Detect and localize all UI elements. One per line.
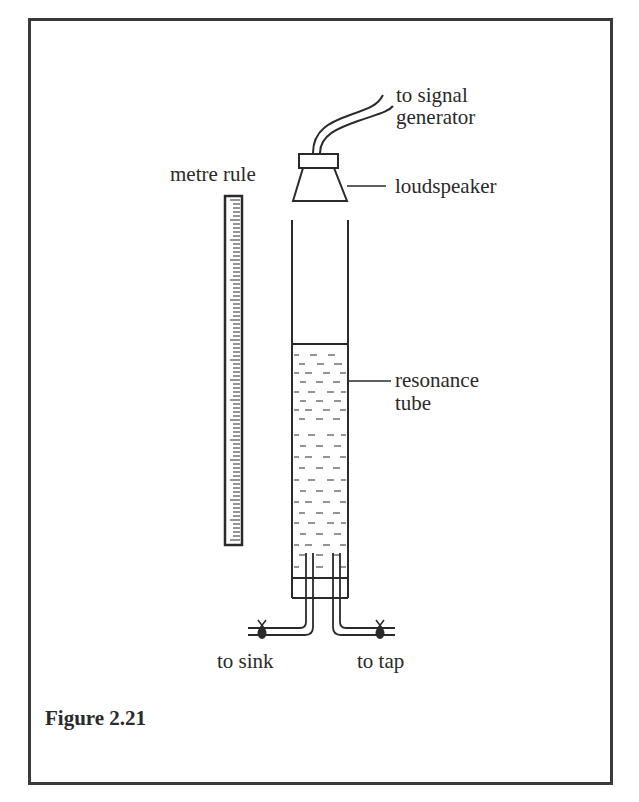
label-tube: tube bbox=[395, 392, 431, 414]
signal-wires bbox=[313, 95, 393, 153]
figure-caption: Figure 2.21 bbox=[45, 706, 146, 731]
sink-clip-icon bbox=[258, 620, 266, 638]
metre-rule-icon bbox=[225, 196, 242, 545]
label-to-sink: to sink bbox=[217, 650, 274, 672]
label-signal-line1: to signal bbox=[396, 84, 468, 106]
label-metre-rule: metre rule bbox=[170, 163, 256, 185]
resonance-tube-diagram bbox=[0, 0, 639, 802]
label-signal-line2: generator bbox=[396, 106, 475, 128]
resonance-tube bbox=[292, 220, 348, 598]
water bbox=[294, 355, 346, 567]
tap-clip-icon bbox=[376, 620, 384, 638]
label-resonance: resonance bbox=[395, 369, 479, 391]
loudspeaker-icon bbox=[293, 154, 347, 201]
drain-pipes bbox=[248, 553, 395, 635]
label-loudspeaker: loudspeaker bbox=[395, 175, 496, 197]
label-to-tap: to tap bbox=[357, 650, 404, 672]
